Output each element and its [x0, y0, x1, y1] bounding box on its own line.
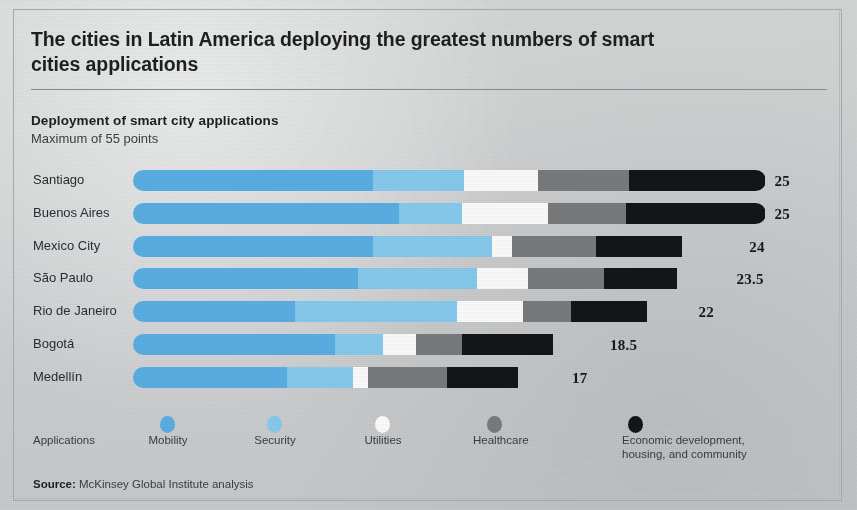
- legend-swatch-icon: [487, 416, 502, 433]
- legend-axis-label: Applications: [33, 434, 95, 446]
- legend-swatch-icon: [267, 416, 282, 433]
- legend-item-label: Healthcare: [473, 434, 517, 448]
- chart-page: The cities in Latin America deploying th…: [0, 0, 857, 510]
- legend-item-label: Economic development, housing, and commu…: [622, 434, 772, 461]
- source-note: Source: McKinsey Global Institute analys…: [33, 478, 254, 490]
- legend-swatch-icon: [160, 416, 175, 433]
- legend-swatch-icon: [375, 416, 390, 433]
- source-label: Source:: [33, 478, 76, 490]
- source-text: McKinsey Global Institute analysis: [76, 478, 254, 490]
- legend-item-label: Security: [253, 434, 297, 448]
- chart-legend: Applications MobilitySecurityUtilitiesHe…: [0, 0, 857, 510]
- legend-item-label: Utilities: [361, 434, 405, 448]
- legend-item-label: Mobility: [146, 434, 190, 448]
- legend-swatch-icon: [628, 416, 643, 433]
